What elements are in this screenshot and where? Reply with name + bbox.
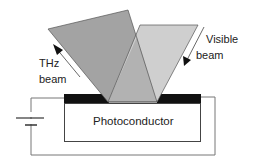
visible-beam-label: Visible beam — [196, 33, 238, 62]
photoconductor-label: Photoconductor — [93, 115, 174, 128]
thz-label-line2: beam — [39, 73, 67, 86]
right-electrode — [157, 94, 201, 103]
diagram-canvas — [0, 0, 253, 165]
visible-arrowhead-icon — [183, 56, 191, 66]
visible-label-line1: Visible — [206, 33, 238, 46]
visible-label-line2: beam — [196, 49, 238, 62]
thz-label-line1: THz — [39, 57, 67, 70]
thz-beam-label: THz beam — [39, 57, 67, 86]
